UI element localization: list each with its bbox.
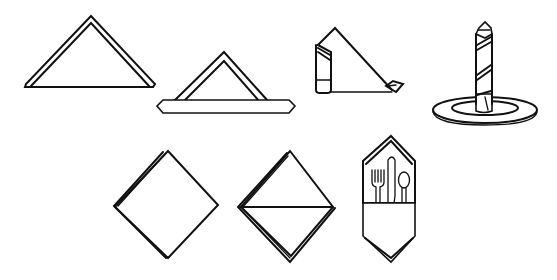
step-1-triangle <box>25 16 155 87</box>
step-2-triangle-band <box>157 52 295 113</box>
step-5-diamond <box>114 151 218 258</box>
step-4-candle-on-plate <box>433 22 537 125</box>
napkin-folding-diagram <box>0 0 557 280</box>
step-3-rolling <box>316 28 403 93</box>
step-6-diamond-fold <box>238 151 335 262</box>
spoon-icon <box>399 172 410 203</box>
fork-icon <box>372 170 384 203</box>
step-7-cutlery-pocket <box>363 136 415 262</box>
knife-icon <box>388 157 395 203</box>
